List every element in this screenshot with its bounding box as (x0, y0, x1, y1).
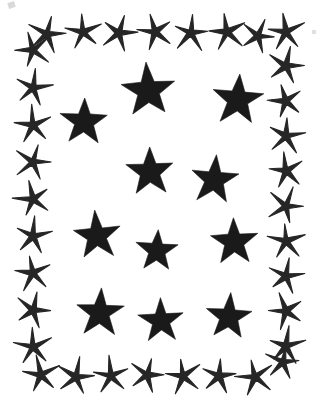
star-pattern-artboard: Star border pattern (0, 0, 322, 415)
star-pattern-canvas (0, 0, 322, 415)
scan-speck-right (312, 30, 316, 34)
